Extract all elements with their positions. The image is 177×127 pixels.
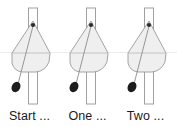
cone-body (128, 21, 166, 72)
cone-body (70, 21, 108, 72)
pendulum-diagram-icon (116, 0, 175, 108)
pendulum-panel-one (58, 0, 117, 108)
pivot-point (31, 23, 35, 27)
pendulum-panel-two (116, 0, 175, 108)
pendulum-panel-start (0, 0, 59, 108)
panel-caption-start: Start ... (0, 106, 59, 126)
pivot-point (147, 23, 151, 27)
pendulum-diagram-icon (58, 0, 117, 108)
panel-caption-one: One ... (58, 106, 117, 126)
panel-row (0, 0, 177, 108)
pendulum-bob (126, 80, 138, 93)
pendulum-bob (10, 80, 22, 93)
pendulum-diagram-icon (0, 0, 59, 108)
pendulum-sequence-figure: Start ... One ... Two ... (0, 0, 177, 127)
cone-body (12, 21, 50, 72)
panel-caption-two: Two ... (116, 106, 175, 126)
pivot-point (89, 23, 93, 27)
pendulum-bob (68, 80, 80, 93)
caption-row: Start ... One ... Two ... (0, 106, 177, 127)
